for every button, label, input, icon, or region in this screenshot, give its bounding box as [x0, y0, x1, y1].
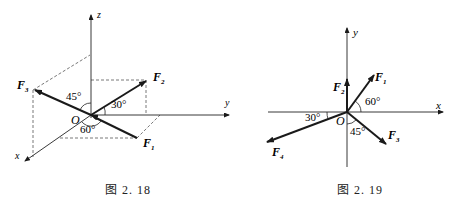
figure-2-19: [267, 28, 443, 167]
angle-arc-60: [355, 101, 361, 112]
force-f3-arrow: [35, 90, 91, 115]
angle-arc-30: [327, 112, 328, 119]
x-axis-label: x: [15, 150, 19, 161]
force-f1-label: F1: [375, 70, 387, 86]
origin-label: O: [71, 113, 80, 128]
angle-arc-45: [347, 120, 356, 124]
angle-label-30: 30°: [111, 98, 126, 110]
force-f3-label: F3: [17, 78, 29, 94]
force-f4-label: F4: [272, 145, 284, 161]
angle-label-60: 60°: [365, 95, 380, 107]
figure-2-18: [25, 15, 229, 161]
origin-label: O: [336, 114, 345, 129]
force-f3-label: F3: [388, 128, 400, 144]
angle-label-30: 30°: [305, 111, 320, 123]
figure-caption-2-18: 图 2. 18: [105, 180, 151, 198]
force-f1-line: [94, 117, 137, 138]
y-axis-label: y: [353, 26, 358, 38]
angle-label-45: 45°: [66, 90, 81, 102]
z-axis-label: z: [97, 9, 101, 20]
angle-label-45: 45°: [350, 125, 365, 137]
y-axis-label: y: [225, 97, 229, 108]
figure-caption-2-19: 图 2. 19: [337, 180, 383, 198]
angle-arc-30: [104, 107, 105, 115]
force-f1-label: F1: [143, 136, 155, 152]
angle-arc-45: [80, 103, 91, 110]
x-axis-label: x: [436, 99, 441, 111]
angle-label-60: 60°: [80, 123, 95, 135]
force-f2-label: F2: [153, 70, 165, 86]
force-f2-label: F2: [333, 80, 345, 96]
